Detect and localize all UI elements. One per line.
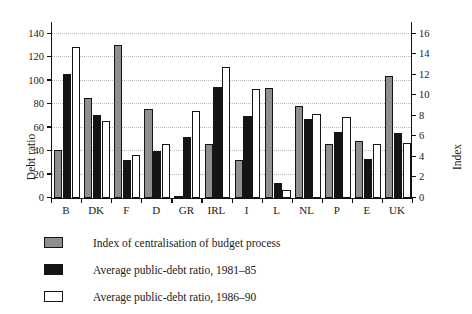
bar-debt-1986-90 (102, 121, 110, 198)
x-tick (141, 198, 142, 203)
bar-group (52, 22, 82, 198)
x-category-label-p: P (322, 204, 352, 216)
y-tick-label-left: 60 (34, 123, 45, 133)
x-tick (171, 198, 172, 203)
y-axis-title-right: Index (451, 144, 463, 170)
legend-item: Index of centralisation of budget proces… (44, 229, 444, 256)
x-category-label-dk: DK (81, 204, 111, 216)
x-tick (292, 198, 293, 203)
bar-debt-1981-85 (123, 160, 131, 198)
bar-group (142, 22, 172, 198)
bar-debt-1981-85 (153, 151, 161, 198)
bar-debt-1986-90 (373, 144, 381, 198)
legend-swatch (44, 291, 63, 302)
bar-index-centralisation (295, 106, 303, 198)
bar-debt-1981-85 (213, 87, 221, 198)
bar-debt-1981-85 (364, 159, 372, 198)
bar-index-centralisation (144, 109, 152, 198)
x-category-label-d: D (141, 204, 171, 216)
legend-label: Average public-debt ratio, 1986–90 (93, 291, 256, 303)
x-category-label-nl: NL (292, 204, 322, 216)
bar-debt-1986-90 (403, 143, 411, 198)
bar-index-centralisation (265, 88, 273, 198)
plot-area: 020406080100120140 0246810121416 (51, 22, 412, 198)
y-tick-label-right: 6 (419, 131, 424, 141)
y-tick-label-right: 4 (419, 152, 424, 162)
bar-index-centralisation (235, 160, 243, 198)
bar-debt-1981-85 (183, 137, 191, 198)
bar-debt-1981-85 (243, 116, 251, 198)
x-category-label-uk: UK (382, 204, 412, 216)
x-category-label-e: E (352, 204, 382, 216)
y-tick-label-left: 100 (28, 76, 44, 86)
x-tick (322, 198, 323, 203)
y-tick-label-left: 0 (39, 193, 44, 203)
x-category-label-gr: GR (171, 204, 201, 216)
bar-debt-1986-90 (312, 114, 320, 198)
x-category-label-l: L (262, 204, 292, 216)
x-tick (111, 198, 112, 203)
y-tick-label-right: 12 (419, 70, 430, 80)
x-category-label-b: B (51, 204, 81, 216)
x-category-label-irl: IRL (201, 204, 231, 216)
legend-swatch (44, 237, 63, 248)
bar-debt-1986-90 (222, 67, 230, 198)
y-tick-label-right: 0 (419, 193, 424, 203)
bar-group (172, 22, 202, 198)
bar-group (112, 22, 142, 198)
bar-group (263, 22, 293, 198)
bar-index-centralisation (325, 144, 333, 198)
bar-index-centralisation (114, 45, 122, 198)
bar-group (82, 22, 112, 198)
bar-debt-1981-85 (63, 74, 71, 198)
bar-debt-1981-85 (334, 132, 342, 198)
bar-debt-1981-85 (394, 133, 402, 198)
bar-debt-1981-85 (93, 115, 101, 198)
y-tick-label-left: 140 (28, 29, 44, 39)
y-tick-label-left: 120 (28, 52, 44, 62)
y-tick-label-right: 8 (419, 111, 424, 121)
y-tick-label-right: 10 (419, 90, 430, 100)
bar-debt-1986-90 (132, 155, 140, 198)
y-tick-label-left: 80 (34, 99, 45, 109)
bar-index-centralisation (84, 98, 92, 198)
bar-debt-1986-90 (282, 190, 290, 198)
y-tick-label-right: 16 (419, 29, 430, 39)
legend-swatch (44, 264, 63, 275)
bar-index-centralisation (355, 141, 363, 198)
bar-index-centralisation (385, 76, 393, 198)
x-category-label-f: F (111, 204, 141, 216)
bar-index-centralisation (205, 144, 213, 198)
y-axis-title-left: Debt ratio (25, 134, 37, 180)
x-tick (412, 198, 413, 203)
y-tick-label-right: 14 (419, 49, 430, 59)
bar-index-centralisation (54, 150, 62, 198)
bar-debt-1986-90 (162, 144, 170, 198)
x-tick (51, 198, 52, 203)
x-tick (81, 198, 82, 203)
bar-group (323, 22, 353, 198)
y-tick-label-right: 2 (419, 172, 424, 182)
bar-group (202, 22, 232, 198)
bar-debt-1981-85 (304, 119, 312, 198)
bar-group (353, 22, 383, 198)
bar-debt-1986-90 (342, 117, 350, 198)
legend-item: Average public-debt ratio, 1981–85 (44, 256, 444, 283)
legend: Index of centralisation of budget proces… (44, 229, 444, 310)
x-tick (262, 198, 263, 203)
bar-debt-1981-85 (274, 183, 282, 198)
legend-label: Index of centralisation of budget proces… (93, 237, 280, 249)
bar-group (233, 22, 263, 198)
x-tick (201, 198, 202, 203)
legend-label: Average public-debt ratio, 1981–85 (93, 264, 256, 276)
bar-group (383, 22, 413, 198)
bar-debt-1986-90 (72, 47, 80, 198)
x-tick (352, 198, 353, 203)
bar-chart-figure: 020406080100120140 0246810121416 BDKFDGR… (0, 0, 472, 314)
legend-item: Average public-debt ratio, 1986–90 (44, 283, 444, 310)
x-tick (382, 198, 383, 203)
bar-debt-1986-90 (192, 111, 200, 198)
x-tick (232, 198, 233, 203)
bar-debt-1986-90 (252, 89, 260, 198)
x-category-label-i: I (232, 204, 262, 216)
